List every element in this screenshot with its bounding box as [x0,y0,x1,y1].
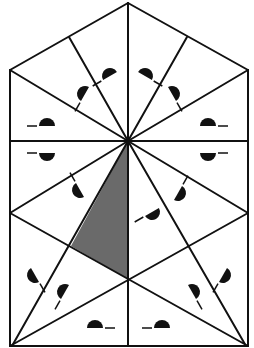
half-disk-marker-icon [135,208,163,229]
half-disk-marker-icon [200,118,228,126]
half-disk-marker-icon [48,281,69,309]
half-disk-marker-icon [27,118,55,126]
diagram-line [128,3,248,70]
diagram-line [69,37,128,141]
half-disk-marker-icon [87,320,115,328]
geometric-puzzle-diagram [0,0,254,348]
diagram-line [128,70,248,141]
shaded-triangle [71,141,128,279]
half-disk-marker-icon [63,173,84,201]
diagram-line [10,70,128,141]
diagram-line [128,141,246,346]
half-disk-marker-icon [89,65,117,86]
half-disk-marker-icon [200,153,228,161]
half-disk-marker-icon [213,268,234,296]
half-disk-marker-icon [188,281,209,309]
half-disk-marker-icon [142,320,170,328]
half-disk-marker-icon [27,153,55,161]
diagram-lines [10,3,248,346]
